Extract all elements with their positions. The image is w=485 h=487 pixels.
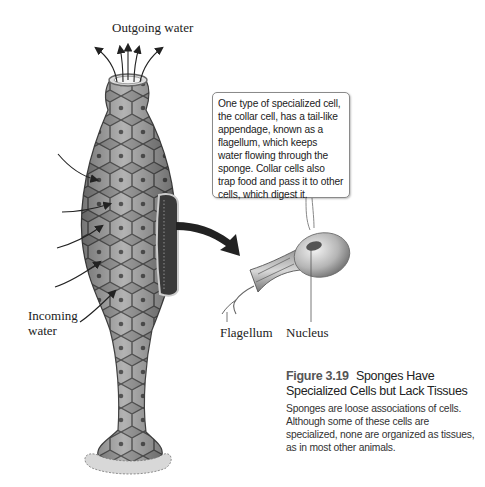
incoming-water-line2: water xyxy=(28,323,78,338)
curved-arrow-icon xyxy=(176,222,240,256)
flagellum-label: Flagellum xyxy=(220,325,273,340)
incoming-water-line1: Incoming xyxy=(28,308,78,323)
sponge-body xyxy=(81,74,178,474)
collar-cell xyxy=(222,228,354,314)
caption-title: Figure 3.19 Sponges Have Specialized Cel… xyxy=(286,369,481,399)
incoming-water-label: Incoming water xyxy=(28,308,78,338)
sponge-figure: Outgoing water Incoming water Flagellum … xyxy=(0,0,485,487)
callout-text: One type of specialized cell, the collar… xyxy=(218,98,343,200)
figure-number: Figure 3.19 xyxy=(286,369,349,383)
flagellum-shape xyxy=(234,286,254,314)
figure-caption: Figure 3.19 Sponges Have Specialized Cel… xyxy=(286,369,481,454)
caption-body: Sponges are loose associations of cells.… xyxy=(286,402,481,454)
outgoing-water-label: Outgoing water xyxy=(112,20,193,35)
collar-cell-callout: One type of specialized cell, the collar… xyxy=(212,92,350,198)
nucleus-label: Nucleus xyxy=(286,325,329,340)
